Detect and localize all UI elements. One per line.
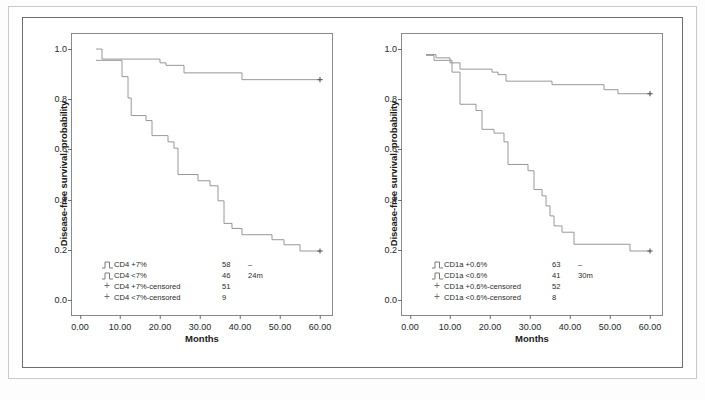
legend-row: CD1a <0.6%4130m bbox=[430, 270, 612, 281]
legend-label: CD1a <0.6%-censored bbox=[444, 292, 552, 303]
survival-curve bbox=[96, 60, 320, 251]
legend-median-value: 30m bbox=[578, 270, 612, 281]
legend-label: CD1a <0.6% bbox=[444, 270, 552, 281]
plus-icon: + bbox=[430, 292, 444, 303]
y-tick-label: 0.2 bbox=[54, 245, 72, 255]
legend-row: +CD1a <0.6%-censored8 bbox=[430, 292, 612, 303]
legend-row: +CD1a +0.6%-censored52 bbox=[430, 281, 612, 292]
step-icon bbox=[430, 261, 444, 269]
panel-cd1a: Disease-free survival, probability 1.00.… bbox=[353, 18, 683, 369]
y-tick-label: 1.0 bbox=[384, 44, 402, 54]
x-tick-label: 60.00 bbox=[309, 315, 332, 332]
legend-median-value: – bbox=[578, 259, 612, 270]
survival-curve bbox=[96, 49, 320, 80]
legend-n-value: 58 bbox=[222, 259, 248, 270]
legend-label: CD4 +7% bbox=[114, 259, 222, 270]
x-tick-label: 50.00 bbox=[269, 315, 292, 332]
legend-n-value: 9 bbox=[222, 292, 248, 303]
x-tick-label: 0.00 bbox=[71, 315, 89, 332]
legend-median-value: – bbox=[248, 259, 282, 270]
survival-curve bbox=[426, 55, 650, 251]
y-tick-label: 1.0 bbox=[54, 44, 72, 54]
x-tick-label: 30.00 bbox=[519, 315, 542, 332]
x-tick-label: 60.00 bbox=[639, 315, 662, 332]
y-tick-label: 0.8 bbox=[54, 94, 72, 104]
legend-left: CD4 +7%58–CD4 <7%4624m+CD4 +7%-censored5… bbox=[100, 259, 282, 303]
x-tick-label: 10.00 bbox=[109, 315, 132, 332]
figure-border: Disease-free survival, probability 1.00.… bbox=[22, 17, 683, 368]
plot-area-left: 1.00.80.60.40.20.0 0.0010.0020.0030.0040… bbox=[71, 33, 333, 316]
y-tick-label: 0.8 bbox=[384, 94, 402, 104]
legend-row: CD1a +0.6%63– bbox=[430, 259, 612, 270]
x-axis-title-left: Months bbox=[71, 333, 333, 344]
legend-median-value: 24m bbox=[248, 270, 282, 281]
x-tick-label: 30.00 bbox=[189, 315, 212, 332]
y-tick-label: 0.6 bbox=[54, 144, 72, 154]
panel-cd4: Disease-free survival, probability 1.00.… bbox=[23, 18, 353, 369]
x-tick-label: 20.00 bbox=[149, 315, 172, 332]
x-axis-title-right: Months bbox=[401, 333, 663, 344]
legend-n-value: 63 bbox=[552, 259, 578, 270]
x-tick-label: 40.00 bbox=[559, 315, 582, 332]
legend-row: +CD4 +7%-censored51 bbox=[100, 281, 282, 292]
figure-page: Disease-free survival, probability 1.00.… bbox=[0, 0, 705, 400]
y-tick-label: 0.0 bbox=[54, 295, 72, 305]
censored-marker bbox=[647, 91, 652, 96]
legend-n-value: 8 bbox=[552, 292, 578, 303]
legend-label: CD1a +0.6% bbox=[444, 259, 552, 270]
x-tick-label: 40.00 bbox=[229, 315, 252, 332]
y-tick-label: 0.2 bbox=[384, 245, 402, 255]
legend-label: CD4 +7%-censored bbox=[114, 281, 222, 292]
y-tick-label: 0.4 bbox=[54, 195, 72, 205]
legend-row: CD4 +7%58– bbox=[100, 259, 282, 270]
step-icon bbox=[100, 272, 114, 280]
x-tick-label: 0.00 bbox=[401, 315, 419, 332]
charts-row: Disease-free survival, probability 1.00.… bbox=[23, 18, 684, 369]
censored-marker bbox=[647, 248, 652, 253]
legend-row: +CD4 <7%-censored9 bbox=[100, 292, 282, 303]
legend-label: CD4 <7%-censored bbox=[114, 292, 222, 303]
y-tick-label: 0.4 bbox=[384, 195, 402, 205]
step-icon bbox=[100, 261, 114, 269]
legend-label: CD4 <7% bbox=[114, 270, 222, 281]
legend-label: CD1a +0.6%-censored bbox=[444, 281, 552, 292]
legend-n-value: 46 bbox=[222, 270, 248, 281]
censored-marker bbox=[317, 248, 322, 253]
plus-icon: + bbox=[100, 292, 114, 303]
y-tick-label: 0.0 bbox=[384, 295, 402, 305]
step-icon bbox=[430, 272, 444, 280]
legend-n-value: 52 bbox=[552, 281, 578, 292]
y-tick-label: 0.6 bbox=[384, 144, 402, 154]
censored-marker bbox=[317, 77, 322, 82]
legend-row: CD4 <7%4624m bbox=[100, 270, 282, 281]
legend-n-value: 41 bbox=[552, 270, 578, 281]
x-tick-label: 10.00 bbox=[439, 315, 462, 332]
x-tick-label: 20.00 bbox=[479, 315, 502, 332]
legend-n-value: 51 bbox=[222, 281, 248, 292]
x-tick-label: 50.00 bbox=[599, 315, 622, 332]
legend-right: CD1a +0.6%63–CD1a <0.6%4130m+CD1a +0.6%-… bbox=[430, 259, 612, 303]
plot-area-right: 1.00.80.60.40.20.0 0.0010.0020.0030.0040… bbox=[401, 33, 663, 316]
